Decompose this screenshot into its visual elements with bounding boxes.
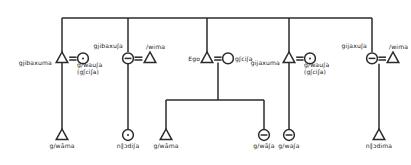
label-unit-5-male: /wima [389,44,408,51]
label-child-3: g/wāma [141,143,191,150]
symbol-male-unit-5 [387,52,399,63]
label-unit-2-male: /wima [146,44,165,51]
kinship-graphic [0,0,411,165]
label-child-5: g/waʃa [264,143,314,150]
label-unit-1-male: gjibaxuma [0,60,52,67]
symbol-child-3 [160,129,172,140]
symbol-male-ego [201,52,213,63]
label-child-1: g/wāma [37,143,87,150]
label-child-6: n∥ɔdima [354,143,404,150]
symbol-male-unit-2 [144,52,156,63]
label-unit-4-female-alt: (gʃciʃa) [304,69,326,76]
symbol-female-dot-unit-4 [309,57,311,59]
label-unit-4-female: g/wauʃa [304,62,329,69]
label-unit-2-female: gjibaxuʃa [76,43,123,50]
label-unit-1-female: g/wauʃa [77,62,102,69]
symbol-child-2-dot [127,134,129,136]
symbol-male-unit-4 [283,52,295,63]
label-ego: Ego [172,56,200,63]
kinship-diagram: gjibaxuma g/wauʃa (gʃciʃa) gjibaxuʃa /wi… [0,0,411,165]
symbol-male-unit-1 [56,52,68,63]
label-unit-4-male: gijaxuma [228,60,280,67]
label-unit-1-female-alt: (gʃciʃa) [77,69,99,76]
symbol-child-6 [373,129,385,140]
symbol-female-dot-unit-1 [82,57,84,59]
label-unit-5-female: gijaxuʃa [320,43,367,50]
symbol-child-1 [56,129,68,140]
